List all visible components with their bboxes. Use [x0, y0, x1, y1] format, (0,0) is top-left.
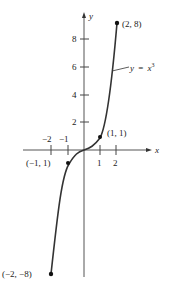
x-tick-label: −1: [59, 134, 69, 144]
y-axis-arrow-icon: [82, 12, 86, 18]
point-neg1-neg1: [66, 161, 70, 165]
point-1-1: [98, 135, 102, 139]
y-tick-label: 8: [72, 34, 77, 44]
point-2-8: [115, 21, 119, 25]
function-label: y = x3: [129, 62, 155, 73]
point-label: (2, 8): [122, 19, 142, 29]
y-ticks: 8 6 4 2: [72, 34, 89, 127]
point-label: (1, 1): [107, 128, 127, 138]
x-tick-label: 2: [113, 158, 118, 168]
x-tick-label: 1: [97, 158, 102, 168]
point-label: (−2, −8): [2, 269, 32, 279]
y-axis-label: y: [88, 11, 93, 21]
point-neg2-neg8: [49, 272, 53, 276]
cubic-function-graph: y x 8 6 4 2 −2 −1 1 2 (2, 8) (1, 1) (−1,…: [0, 0, 169, 298]
x-axis-arrow-icon: [146, 148, 152, 152]
x-tick-label: −2: [42, 134, 52, 144]
x-axis-label: x: [154, 145, 159, 155]
leader-line: [112, 67, 129, 71]
y-tick-label: 2: [72, 117, 77, 127]
point-label: (−1, 1): [26, 158, 51, 168]
y-tick-label: 4: [72, 90, 77, 100]
y-tick-label: 6: [72, 62, 77, 72]
